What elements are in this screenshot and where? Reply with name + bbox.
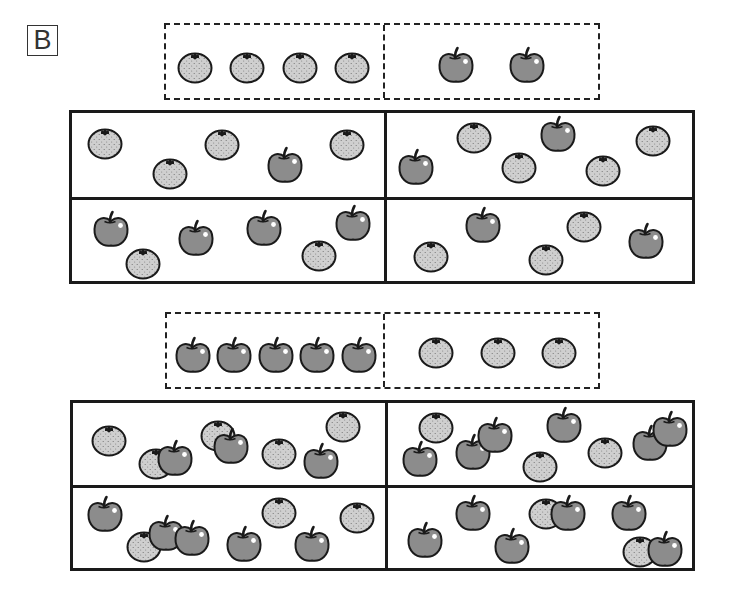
orange-icon — [543, 339, 576, 368]
orange-icon — [568, 213, 601, 242]
apple-icon — [227, 527, 260, 561]
apple-icon — [408, 523, 441, 557]
orange-icon — [89, 130, 122, 159]
orange-icon — [303, 242, 336, 271]
orange-icon — [341, 504, 374, 533]
orange-icon — [420, 414, 453, 443]
orange-icon — [206, 131, 239, 160]
apple-icon — [259, 338, 292, 372]
apple-icon — [629, 224, 662, 258]
apple-icon — [612, 496, 645, 530]
apple-icon — [648, 532, 681, 566]
apple-icon — [247, 211, 280, 245]
apple-icon — [456, 496, 489, 530]
apple-icon — [510, 48, 543, 82]
orange-icon — [127, 250, 160, 279]
apple-icon — [158, 441, 191, 475]
orange-icon — [331, 131, 364, 160]
apple-icon — [176, 338, 209, 372]
apple-icon — [541, 117, 574, 151]
orange-icon — [231, 54, 264, 83]
apple-icon — [403, 442, 436, 476]
apple-icon — [495, 529, 528, 563]
orange-icon — [420, 339, 453, 368]
orange-icon — [263, 499, 296, 528]
orange-icon — [336, 54, 369, 83]
apple-icon — [304, 444, 337, 478]
apple-icon — [179, 221, 212, 255]
orange-icon — [589, 439, 622, 468]
orange-icon — [524, 453, 557, 482]
orange-icon — [415, 243, 448, 272]
apple-icon — [478, 418, 511, 452]
apple-icon — [399, 150, 432, 184]
apple-icon — [268, 148, 301, 182]
orange-icon — [179, 54, 212, 83]
apple-icon — [439, 48, 472, 82]
orange-icon — [482, 339, 515, 368]
orange-icon — [503, 154, 536, 183]
apple-icon — [217, 338, 250, 372]
apple-icon — [466, 208, 499, 242]
orange-icon — [327, 413, 360, 442]
orange-icon — [154, 160, 187, 189]
orange-icon — [637, 127, 670, 156]
apple-icon — [547, 408, 580, 442]
orange-icon — [587, 157, 620, 186]
apple-icon — [94, 212, 127, 246]
apple-icon — [88, 497, 121, 531]
apple-icon — [342, 338, 375, 372]
orange-icon — [284, 54, 317, 83]
orange-icon — [530, 246, 563, 275]
apple-icon — [300, 338, 333, 372]
orange-icon — [93, 427, 126, 456]
apple-icon — [653, 412, 686, 446]
orange-icon — [458, 124, 491, 153]
apple-icon — [336, 206, 369, 240]
fruit-layer — [0, 0, 731, 589]
orange-icon — [263, 440, 296, 469]
apple-icon — [295, 527, 328, 561]
apple-icon — [551, 496, 584, 530]
